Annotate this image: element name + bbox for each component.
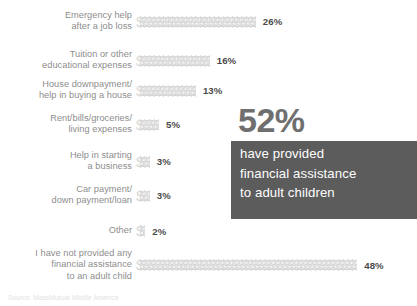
row-label: Tuition or other educational expenses — [0, 49, 136, 72]
row-value: 16% — [210, 55, 237, 66]
row-label: Other — [0, 225, 136, 236]
row-value: 13% — [196, 85, 223, 96]
callout-line-2: financial assistance — [240, 164, 416, 184]
row-value: 2% — [145, 226, 166, 237]
row-bar: $$ — [136, 222, 145, 240]
row-value: 26% — [256, 16, 283, 27]
row-label: Car payment/ down payment/loan — [0, 184, 136, 207]
row-label: Help in starting a business — [0, 150, 136, 173]
row-bar: $$$$$$$$$$$$$$$$$$$$$$$$$$ — [136, 12, 256, 30]
chart-row: I have not provided any financial assist… — [0, 248, 413, 282]
row-bar: $$$ — [136, 152, 150, 170]
row-bar: $$$$$$$$$$$$$$$$$$$$$$$$$$$$$$$$$$$$$$$$… — [136, 256, 357, 274]
callout-stat: 52% — [238, 101, 305, 139]
chart-row: Emergency help after a job loss$$$$$$$$$… — [0, 10, 413, 33]
chart-row: Rent/bills/groceries/ living expenses$$$… — [0, 113, 413, 136]
row-bar: $$$ — [136, 186, 150, 204]
row-value: 5% — [159, 119, 180, 130]
row-value: 48% — [357, 260, 384, 271]
callout-line-3: to adult children — [240, 183, 416, 203]
row-label: House downpayment/ help in buying a hous… — [0, 79, 136, 102]
chart-row: Other$$2% — [0, 222, 413, 240]
chart-row: Tuition or other educational expenses$$$… — [0, 49, 413, 72]
row-label: Emergency help after a job loss — [0, 10, 136, 33]
row-value: 3% — [150, 190, 171, 201]
chart-row: House downpayment/ help in buying a hous… — [0, 79, 413, 102]
row-bar: $$$$$$$$$$$$$$$$ — [136, 51, 210, 69]
row-bar: $$$$$$$$$$$$$ — [136, 81, 196, 99]
callout-line-1: have provided — [240, 144, 416, 164]
source-note: Source: MassMutual Middle America — [8, 294, 118, 301]
row-label: I have not provided any financial assist… — [0, 248, 136, 282]
row-label: Rent/bills/groceries/ living expenses — [0, 113, 136, 136]
row-value: 3% — [150, 156, 171, 167]
row-bar: $$$$$ — [136, 115, 159, 133]
callout-text: have provided financial assistance to ad… — [240, 144, 416, 203]
